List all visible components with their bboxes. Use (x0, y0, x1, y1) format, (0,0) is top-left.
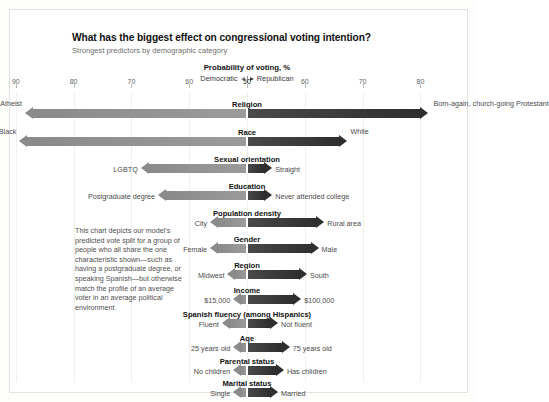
bar-end-label-right: Male (322, 245, 338, 254)
gridline (363, 92, 364, 382)
bar-center-divider (246, 108, 247, 119)
bar-center-divider (246, 217, 247, 228)
bar-end-label-right: Not fluent (281, 320, 312, 329)
bar-arrow-left-icon (141, 162, 149, 174)
bar-arrow-right-icon (264, 189, 272, 201)
axis-tick-mark (16, 84, 17, 88)
bar-segment-republican (247, 191, 264, 200)
gridline (420, 92, 421, 382)
bar-segment-republican (247, 218, 316, 227)
bar-arrow-left-icon (222, 317, 230, 329)
bar-segment-republican (247, 137, 339, 146)
chart-annotation: This chart depicts our model's predicted… (75, 226, 187, 312)
bar-end-label-left: Postgraduate degree (88, 192, 155, 201)
bar-end-label-left: Midwest (198, 271, 224, 280)
diverging-bar (33, 109, 420, 118)
axis-tick-mark (131, 84, 132, 88)
bar-arrow-left-icon (210, 242, 218, 254)
bar-segment-republican (247, 295, 293, 304)
bar-segment-democratic (27, 137, 247, 146)
diverging-bar (166, 191, 264, 200)
bar-end-label-left: $15,000 (204, 296, 230, 305)
bar-end-label-left: LGBTQ (113, 165, 137, 174)
bar-end-label-right: Born-again, church-going Protestant (433, 99, 548, 108)
bar-arrow-right-icon (270, 386, 278, 398)
bar-end-label-left: No children (194, 367, 230, 376)
bar-arrow-right-icon (420, 107, 428, 119)
bar-center-divider (246, 136, 247, 147)
diverging-bar (149, 164, 265, 173)
bar-segment-republican (247, 343, 282, 352)
bar-arrow-left-icon (233, 293, 241, 305)
bar-arrow-left-icon (19, 135, 27, 147)
bar-segment-democratic (218, 244, 247, 253)
diverging-bar (218, 218, 316, 227)
bar-arrow-left-icon (158, 189, 166, 201)
diverging-bar (241, 295, 293, 304)
bar-center-divider (246, 342, 247, 353)
bar-arrow-left-icon (233, 341, 241, 353)
bar-segment-republican (247, 366, 276, 375)
bar-arrow-right-icon (276, 364, 284, 376)
bar-arrow-right-icon (293, 293, 301, 305)
bar-end-label-left: 25 years old (191, 344, 230, 353)
bar-segment-democratic (230, 319, 247, 328)
bar-end-label-right: Never attended college (275, 192, 349, 201)
bar-end-label-right: Has children (287, 367, 327, 376)
bar-end-label-right: White (350, 127, 368, 136)
bar-arrow-left-icon (233, 386, 241, 398)
bar-center-divider (246, 318, 247, 329)
axis-tick-mark (363, 84, 364, 88)
bar-end-label-right: Straight (275, 165, 300, 174)
bar-segment-democratic (218, 218, 247, 227)
bar-center-divider (246, 365, 247, 376)
gridline (16, 92, 17, 382)
bar-end-label-right: Married (281, 389, 305, 398)
diverging-bar (241, 343, 281, 352)
diverging-bar (235, 270, 299, 279)
bar-arrow-right-icon (264, 162, 272, 174)
bar-segment-republican (247, 319, 270, 328)
diverging-bar (230, 319, 270, 328)
bar-segment-democratic (235, 270, 247, 279)
bar-end-label-left: Atheist (0, 99, 22, 108)
bar-arrow-left-icon (227, 268, 235, 280)
bar-end-label-left: Fluent (199, 320, 219, 329)
bar-arrow-right-icon (311, 242, 319, 254)
bar-arrow-right-icon (282, 341, 290, 353)
bar-end-label-right: Rural area (327, 219, 361, 228)
bar-end-label-left: Black (0, 127, 16, 136)
bar-segment-republican (247, 388, 270, 397)
gridline (305, 92, 306, 382)
bar-center-divider (246, 243, 247, 254)
bar-end-label-left: Single (210, 389, 230, 398)
diverging-bar (218, 244, 310, 253)
bar-end-label-right: 75 years old (293, 344, 332, 353)
bar-segment-democratic (33, 109, 247, 118)
axis-tick-mark (247, 84, 248, 88)
bar-center-divider (246, 269, 247, 280)
bar-arrow-left-icon (210, 216, 218, 228)
bar-arrow-right-icon (316, 216, 324, 228)
bar-center-divider (246, 294, 247, 305)
bar-segment-democratic (149, 164, 247, 173)
diverging-bar (241, 388, 270, 397)
bar-arrow-right-icon (270, 317, 278, 329)
bar-center-divider (246, 190, 247, 201)
bar-end-label-left: City (195, 219, 207, 228)
diverging-bar (27, 137, 339, 146)
chart-card: What has the biggest effect on congressi… (9, 9, 468, 393)
bar-arrow-right-icon (339, 135, 347, 147)
bar-arrow-left-icon (233, 364, 241, 376)
axis-tick-mark (420, 84, 421, 88)
bar-segment-democratic (166, 191, 247, 200)
gridline (189, 92, 190, 382)
bar-end-label-right: South (310, 271, 329, 280)
bar-arrow-left-icon (25, 107, 33, 119)
bar-end-label-right: $100,000 (304, 296, 334, 305)
bar-center-divider (246, 163, 247, 174)
bar-segment-republican (247, 109, 420, 118)
bar-segment-republican (247, 164, 264, 173)
axis-tick-mark (189, 84, 190, 88)
